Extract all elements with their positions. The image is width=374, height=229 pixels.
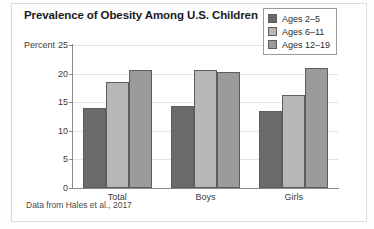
y-axis-tick-labels: 2520151050: [46, 45, 68, 188]
x-axis-tick-label: Boys: [161, 192, 249, 202]
x-axis-tick-label: Total: [73, 192, 161, 202]
legend-item: Ages 2–5: [268, 12, 330, 25]
legend-swatch: [268, 14, 277, 23]
bar-group: [171, 45, 240, 188]
y-axis-tick: [69, 102, 73, 103]
y-axis-tick-label: 5: [63, 154, 68, 164]
legend-label: Ages 6–11: [282, 27, 324, 37]
legend-label: Ages 12–19: [282, 40, 330, 50]
legend-swatch: [268, 27, 277, 36]
bar: [217, 72, 240, 188]
bar: [259, 111, 282, 188]
bar: [194, 70, 217, 188]
plot-area: [73, 45, 338, 188]
x-axis-line: [72, 188, 339, 189]
bar: [171, 106, 194, 188]
bar: [129, 70, 152, 188]
y-axis-tick-label: 10: [58, 126, 68, 136]
y-axis-tick: [69, 74, 73, 75]
bar: [106, 82, 129, 188]
y-axis-tick: [69, 188, 73, 189]
legend-swatch: [268, 40, 277, 49]
legend-item: Ages 12–19: [268, 38, 330, 51]
bar: [305, 68, 328, 188]
legend-item: Ages 6–11: [268, 25, 330, 38]
y-axis-tick-label: 20: [58, 69, 68, 79]
legend-label: Ages 2–5: [282, 14, 320, 24]
x-axis-tick-label: Girls: [250, 192, 338, 202]
chart-legend: Ages 2–5Ages 6–11Ages 12–19: [263, 8, 337, 55]
y-axis-tick: [69, 159, 73, 160]
y-axis-tick-label: 25: [58, 40, 68, 50]
y-axis-tick: [69, 45, 73, 46]
y-axis-tick-label: 15: [58, 97, 68, 107]
y-axis-tick-label: 0: [63, 183, 68, 193]
bar-group: [259, 45, 328, 188]
bar: [83, 108, 106, 188]
chart-figure: Prevalence of Obesity Among U.S. Childre…: [0, 0, 374, 229]
y-axis-tick: [69, 131, 73, 132]
chart-title: Prevalence of Obesity Among U.S. Childre…: [24, 9, 258, 21]
bar-group: [83, 45, 152, 188]
bar: [282, 95, 305, 188]
